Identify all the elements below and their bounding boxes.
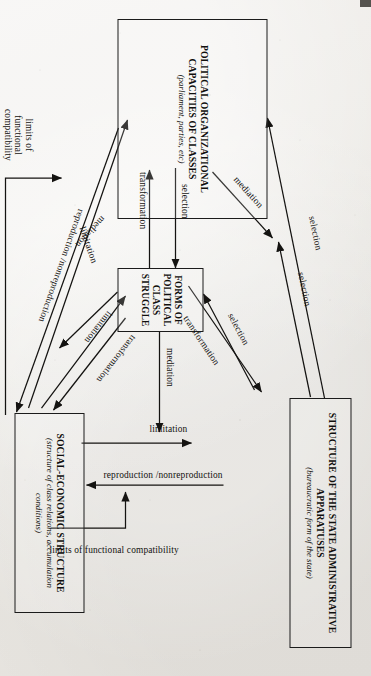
- label-compat-right: limits of functional compatibility: [49, 545, 178, 556]
- node-class-struggle-title: FORMS OF POLITICAL CLASS STRUGGLE: [138, 273, 182, 327]
- edge-selection-state-to-struggle: [278, 242, 310, 397]
- label-limitation-right: limitation: [149, 424, 187, 435]
- node-social-economic-title: SOCIAL-ECONOMIC STRUCTURE: [54, 418, 65, 608]
- label-selection-mid: selection: [178, 184, 189, 219]
- node-social-economic[interactable]: SOCIAL-ECONOMIC STRUCTURE (structure of …: [14, 413, 84, 613]
- diagram-figure: STRUCTURE OF THE STATE ADMINISTRATIVE AP…: [0, 0, 371, 676]
- label-compat-lower: limits of functional compatibility: [1, 98, 33, 172]
- node-social-economic-subtitle: (structure of class relations, accumulat…: [33, 418, 54, 608]
- label-transformation-mid: transformation: [136, 172, 147, 229]
- node-state-apparatuses[interactable]: STRUCTURE OF THE STATE ADMINISTRATIVE AP…: [289, 398, 351, 648]
- node-state-apparatuses-subtitle: (bureaucratic form of the state): [303, 403, 313, 643]
- node-state-apparatuses-title: STRUCTURE OF THE STATE ADMINISTRATIVE AP…: [314, 403, 337, 643]
- diagram-canvas: STRUCTURE OF THE STATE ADMINISTRATIVE AP…: [0, 0, 371, 676]
- edge-limitation-socialecon-to-struggle: [41, 296, 125, 408]
- label-reproduction-right: reproduction /nonreproduction: [103, 470, 222, 481]
- label-mediation-struggle-state: mediation: [163, 348, 174, 387]
- edge-selection-state-to-capacities: [267, 118, 324, 398]
